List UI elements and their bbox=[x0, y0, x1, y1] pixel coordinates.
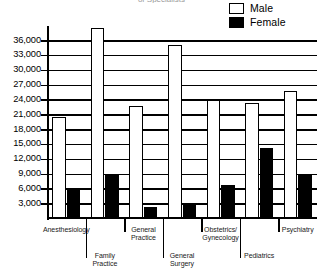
x-axis-category-label: GeneralSurgery bbox=[150, 252, 214, 268]
bar-chart: of Specialists Male Female 3,0006,0009,0… bbox=[0, 0, 323, 280]
x-axis-category-label: GeneralPractice bbox=[111, 226, 175, 242]
x-axis-category-label: Pediatrics bbox=[227, 252, 291, 260]
x-axis-category-label: Obstetrics/Gynecology bbox=[189, 226, 253, 242]
x-axis-category-label-line: Obstetrics/ bbox=[189, 226, 253, 234]
x-axis-category-label-line: Pediatrics bbox=[227, 252, 291, 260]
x-axis-category-label-line: Anesthesiology bbox=[34, 226, 98, 234]
x-axis-category-label-line: Practice bbox=[111, 234, 175, 242]
x-axis-category-label: Psychiatry bbox=[266, 226, 323, 234]
x-axis-category-label-line: Surgery bbox=[150, 260, 214, 268]
x-axis-category-label-line: General bbox=[150, 252, 214, 260]
x-axis-category-label-line: Practice bbox=[73, 260, 137, 268]
x-axis-category-label-line: Family bbox=[73, 252, 137, 260]
x-axis-category-label: FamilyPractice bbox=[73, 252, 137, 268]
x-axis-category-labels: AnesthesiologyFamilyPracticeGeneralPract… bbox=[0, 0, 323, 280]
x-axis-category-label-line: Psychiatry bbox=[266, 226, 323, 234]
x-axis-category-label-line: General bbox=[111, 226, 175, 234]
x-axis-category-label: Anesthesiology bbox=[34, 226, 98, 234]
x-axis-category-label-line: Gynecology bbox=[189, 234, 253, 242]
